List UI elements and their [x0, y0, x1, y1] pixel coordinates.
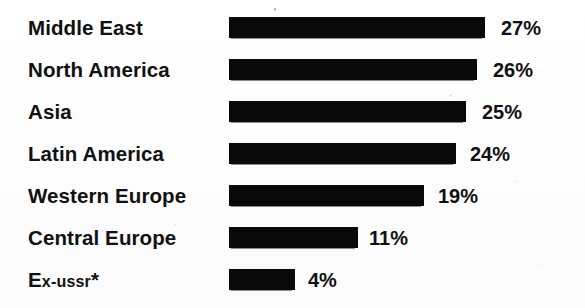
chart-row: Latin America 24%	[0, 133, 585, 175]
bar	[229, 59, 477, 80]
bar-value-label: 25%	[482, 91, 522, 133]
bar-value-label: 26%	[493, 49, 533, 91]
category-label: Central Europe	[28, 217, 176, 259]
category-label: Latin America	[28, 133, 164, 175]
category-label: Western Europe	[28, 175, 186, 217]
category-label: North America	[28, 49, 170, 91]
bar	[229, 269, 295, 290]
bar	[229, 143, 456, 164]
chart-row: Central Europe 11%	[0, 217, 585, 259]
bar	[229, 185, 424, 206]
bar-value-label: 27%	[501, 7, 541, 49]
category-label: Middle East	[28, 7, 143, 49]
category-label: Ex-ussr*	[28, 259, 99, 301]
bar	[229, 227, 358, 248]
chart-row: Asia 25%	[0, 91, 585, 133]
chart-row: Western Europe 19%	[0, 175, 585, 217]
bar	[229, 17, 485, 38]
category-label-prefix: E	[28, 268, 42, 291]
chart-row: North America 26%	[0, 49, 585, 91]
bar-value-label: 4%	[308, 259, 337, 301]
footnote-asterisk: *	[91, 268, 99, 291]
category-label: Asia	[28, 91, 72, 133]
chart-row: Middle East 27%	[0, 7, 585, 49]
category-label-x: x-	[42, 273, 57, 290]
bar-chart: Middle East 27% North America 26% Asia 2…	[0, 0, 585, 308]
bar-value-label: 24%	[470, 133, 510, 175]
chart-row: Ex-ussr* 4%	[0, 259, 585, 301]
category-label-ussr: ussr	[56, 273, 91, 290]
bar-value-label: 11%	[369, 217, 408, 259]
bar-value-label: 19%	[438, 175, 478, 217]
bar	[229, 101, 466, 122]
